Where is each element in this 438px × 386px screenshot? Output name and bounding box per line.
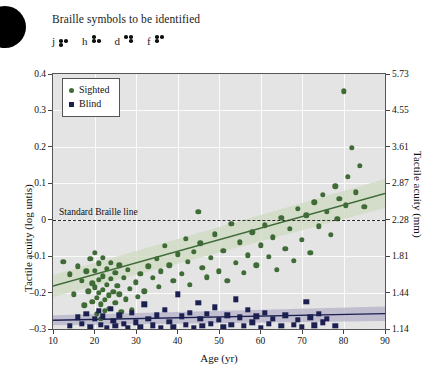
data-point-blind xyxy=(204,311,209,316)
data-point-blind xyxy=(88,324,93,329)
data-point-blind xyxy=(175,292,180,297)
tick-label-y-right: 4.55 xyxy=(392,105,409,115)
tick-label-y-right: 3.61 xyxy=(392,142,409,152)
tick-mark-x xyxy=(343,330,344,334)
data-point-blind xyxy=(129,310,134,315)
braille-letter-label: d xyxy=(115,36,121,47)
tick-label-y-right: 2.87 xyxy=(392,178,409,188)
data-point-blind xyxy=(332,323,337,328)
data-point-blind xyxy=(254,314,259,319)
data-point-blind xyxy=(262,310,267,315)
tick-label-y-right: 5.73 xyxy=(392,69,409,79)
tick-label-y-left: 0.4 xyxy=(16,69,46,79)
braille-cell-icon xyxy=(59,35,69,47)
tick-mark-y-right xyxy=(386,74,390,75)
tick-mark-y-right xyxy=(386,110,390,111)
tick-mark-x xyxy=(302,330,303,334)
tick-label-x: 60 xyxy=(256,336,266,346)
tick-mark-x xyxy=(385,330,386,334)
data-point-blind xyxy=(108,306,113,311)
data-point-blind xyxy=(162,307,167,312)
legend-label-sighted: Sighted xyxy=(79,85,110,95)
data-point-blind xyxy=(191,325,196,330)
data-point-blind xyxy=(150,323,155,328)
data-point-blind xyxy=(179,314,184,319)
figure-panel: Braille symbols to be identified jhdf St… xyxy=(0,0,438,386)
standard-braille-line-label: Standard Braille line xyxy=(59,207,138,217)
braille-cell-icon xyxy=(124,35,134,47)
data-point-blind xyxy=(291,322,296,327)
braille-symbol-j: j xyxy=(52,35,69,47)
data-point-blind xyxy=(113,323,118,328)
tick-label-x: 20 xyxy=(90,336,100,346)
data-point-blind xyxy=(241,323,246,328)
tick-mark-x xyxy=(53,330,54,334)
data-point-blind xyxy=(216,317,221,322)
tick-mark-x xyxy=(177,330,178,334)
data-point-blind xyxy=(198,316,203,321)
braille-letter-label: h xyxy=(82,36,88,47)
data-point-blind xyxy=(324,316,329,321)
data-point-blind xyxy=(137,324,142,329)
header-title: Braille symbols to be identified xyxy=(52,13,200,25)
data-point-blind xyxy=(183,322,188,327)
axis-title-y-right: Tactile acuity (mm) xyxy=(412,151,424,238)
tick-mark-y-left xyxy=(48,183,52,184)
tick-label-x: 80 xyxy=(339,336,349,346)
data-point-blind xyxy=(283,312,288,317)
axis-title-y-left: Tactile acuity (log untis) xyxy=(22,184,34,292)
tick-mark-y-left xyxy=(48,219,52,220)
data-point-blind xyxy=(187,310,192,315)
tick-label-y-right: 2.28 xyxy=(392,215,409,225)
standard-braille-dashed-line xyxy=(53,220,385,221)
data-point-blind xyxy=(92,316,97,321)
tick-label-y-left: 0.2 xyxy=(16,142,46,152)
data-point-blind xyxy=(303,299,308,304)
braille-dot-6 xyxy=(64,43,69,47)
tick-mark-y-left xyxy=(48,256,52,257)
figure-label-bullet xyxy=(0,6,26,48)
data-point-blind xyxy=(229,322,234,327)
tick-label-x: 50 xyxy=(214,336,224,346)
data-point-blind xyxy=(249,320,254,325)
data-point-blind xyxy=(83,311,88,316)
tick-mark-x xyxy=(94,330,95,334)
data-point-blind xyxy=(312,323,317,328)
data-point-blind xyxy=(237,315,242,320)
braille-letter-label: f xyxy=(147,36,151,47)
braille-symbol-f: f xyxy=(147,35,165,47)
tick-mark-y-left xyxy=(48,110,52,111)
data-point-blind xyxy=(220,324,225,329)
tick-label-y-right: 1.14 xyxy=(392,324,409,334)
data-point-blind xyxy=(233,296,238,301)
tick-mark-y-right xyxy=(386,329,390,330)
tick-label-x: 30 xyxy=(131,336,141,346)
braille-dot-6 xyxy=(160,43,165,47)
data-point-blind xyxy=(146,316,151,321)
tick-mark-y-right xyxy=(386,256,390,257)
tick-label-x: 90 xyxy=(380,336,390,346)
chart-legend: Sighted Blind xyxy=(62,78,120,117)
braille-symbol-row: jhdf xyxy=(52,31,165,51)
braille-symbol-h: h xyxy=(82,35,102,47)
tick-mark-y-right xyxy=(386,183,390,184)
braille-dot-6 xyxy=(97,43,102,47)
tick-mark-x xyxy=(219,330,220,334)
data-point-blind xyxy=(171,324,176,329)
tick-mark-x xyxy=(136,330,137,334)
legend-item-sighted: Sighted xyxy=(69,83,110,97)
confidence-band-sighted xyxy=(53,179,385,297)
data-point-blind xyxy=(279,323,284,328)
data-point-blind xyxy=(316,311,321,316)
data-point-blind xyxy=(295,317,300,322)
axis-title-x: Age (yr) xyxy=(200,352,238,364)
data-point-blind xyxy=(266,321,271,326)
tick-label-x: 70 xyxy=(297,336,307,346)
tick-label-y-right: 1.81 xyxy=(392,251,409,261)
data-point-blind xyxy=(308,315,313,320)
data-point-blind xyxy=(196,300,201,305)
tick-mark-y-left xyxy=(48,146,52,147)
braille-dot-6 xyxy=(129,43,134,47)
data-point-blind xyxy=(67,323,72,328)
braille-cell-icon xyxy=(155,35,165,47)
